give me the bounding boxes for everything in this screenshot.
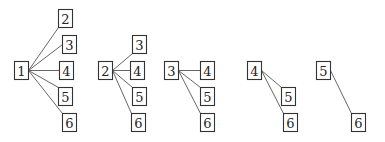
edge-line bbox=[113, 71, 133, 88]
edge-line bbox=[262, 71, 284, 114]
child-node: 5 bbox=[133, 88, 147, 106]
child-node: 6 bbox=[63, 114, 77, 132]
node-label: 4 bbox=[133, 64, 141, 79]
node-label: 1 bbox=[17, 64, 25, 79]
child-node: 5 bbox=[282, 88, 296, 106]
tree-diagram: 12345623456345645656 bbox=[0, 0, 385, 142]
node-label: 6 bbox=[354, 116, 362, 131]
edge-line bbox=[29, 28, 59, 71]
node-label: 6 bbox=[65, 116, 73, 131]
root-node: 5 bbox=[317, 62, 331, 80]
root-node: 2 bbox=[99, 62, 113, 80]
edge-line bbox=[262, 71, 282, 88]
edge-line bbox=[29, 71, 63, 114]
node-label: 5 bbox=[61, 90, 69, 105]
root-node: 4 bbox=[248, 62, 262, 80]
root-node: 1 bbox=[15, 62, 29, 80]
edge-line bbox=[29, 71, 59, 88]
child-node: 6 bbox=[284, 114, 298, 132]
node-label: 3 bbox=[135, 38, 143, 53]
child-node: 6 bbox=[201, 114, 215, 132]
child-node: 5 bbox=[59, 88, 73, 106]
child-node: 2 bbox=[59, 10, 73, 28]
edge-line bbox=[179, 71, 201, 88]
child-node: 4 bbox=[60, 62, 74, 80]
node-label: 6 bbox=[286, 116, 294, 131]
node-label: 2 bbox=[101, 64, 109, 79]
node-label: 3 bbox=[65, 38, 73, 53]
edge-line bbox=[29, 45, 63, 71]
edge-line bbox=[113, 71, 132, 114]
edge-line bbox=[179, 71, 201, 114]
child-node: 4 bbox=[201, 62, 215, 80]
child-node: 3 bbox=[133, 36, 147, 54]
edge-line bbox=[331, 71, 352, 114]
child-node: 6 bbox=[132, 114, 146, 132]
node-label: 5 bbox=[203, 90, 211, 105]
root-node: 3 bbox=[165, 62, 179, 80]
node-label: 4 bbox=[62, 64, 70, 79]
child-node: 3 bbox=[63, 36, 77, 54]
child-node: 5 bbox=[201, 88, 215, 106]
child-node: 4 bbox=[131, 62, 145, 80]
node-label: 6 bbox=[203, 116, 211, 131]
node-label: 4 bbox=[203, 64, 211, 79]
edge-line bbox=[113, 54, 133, 71]
node-label: 6 bbox=[134, 116, 142, 131]
node-label: 3 bbox=[167, 64, 175, 79]
child-node: 6 bbox=[352, 114, 366, 132]
node-label: 2 bbox=[61, 12, 69, 27]
node-label: 5 bbox=[319, 64, 327, 79]
node-label: 4 bbox=[250, 64, 258, 79]
node-label: 5 bbox=[284, 90, 292, 105]
node-label: 5 bbox=[135, 90, 143, 105]
